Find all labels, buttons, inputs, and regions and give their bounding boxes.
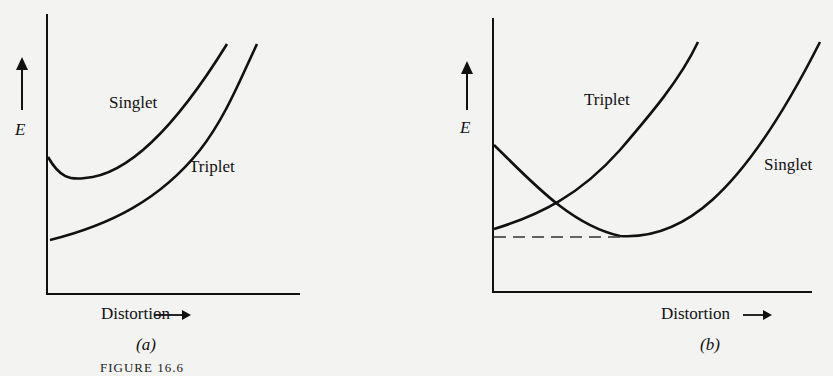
panel-b: E Triplet Singlet Distortion (b)	[459, 18, 820, 354]
panel-b-tag: (b)	[700, 335, 720, 354]
panel-b-triplet-label: Triplet	[584, 90, 630, 109]
panel-b-singlet-curve	[494, 42, 820, 236]
panel-b-x-label: Distortion	[661, 304, 730, 323]
panel-a-x-label: Distortion	[101, 304, 170, 323]
panel-a-energy-arrow-icon	[16, 57, 28, 110]
panel-b-y-label: E	[459, 118, 471, 137]
panel-a-y-label: E	[14, 120, 26, 139]
panel-a-tag: (a)	[136, 335, 156, 354]
panel-a: E Singlet Triplet Distortion (a)	[14, 14, 300, 354]
panel-a-triplet-label: Triplet	[189, 157, 235, 176]
panel-b-triplet-curve	[494, 42, 698, 229]
panel-a-singlet-label: Singlet	[109, 93, 157, 112]
panel-b-distortion-arrow-icon	[743, 310, 772, 320]
panel-b-singlet-label: Singlet	[764, 155, 812, 174]
panel-b-energy-arrow-icon	[461, 61, 473, 110]
figure-caption: FIGURE 16.6	[100, 360, 184, 376]
